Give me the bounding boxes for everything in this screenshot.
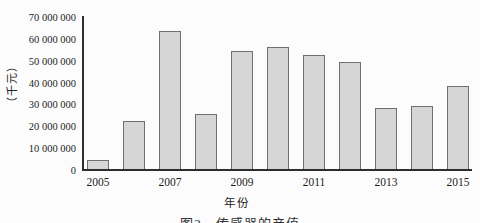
bar-2008 xyxy=(195,114,217,169)
bar-2011 xyxy=(303,55,325,169)
x-axis-title: 年份 xyxy=(224,194,250,210)
x-tick-label: 2009 xyxy=(220,176,264,188)
bar-chart-figure: （千元） 010 000 00020 000 00030 000 00040 0… xyxy=(0,0,480,223)
bar-2013 xyxy=(375,108,397,169)
figure-caption: 图2 传感器的产值 xyxy=(180,213,300,223)
bar-2014 xyxy=(411,106,433,169)
bar-2007 xyxy=(159,31,181,169)
y-tick-label: 20 000 000 xyxy=(0,121,76,132)
x-tick-label: 2005 xyxy=(76,176,120,188)
x-tick-label: 2013 xyxy=(364,176,408,188)
bar-2005 xyxy=(87,160,109,169)
bar-2015 xyxy=(447,86,469,169)
y-tick-label: 60 000 000 xyxy=(0,33,76,44)
bar-2012 xyxy=(339,62,361,169)
y-tick-label: 40 000 000 xyxy=(0,77,76,88)
bar-2006 xyxy=(123,121,145,169)
x-tick-label: 2015 xyxy=(436,176,480,188)
bar-2010 xyxy=(267,47,289,169)
x-tick-label: 2011 xyxy=(292,176,336,188)
y-tick-label: 10 000 000 xyxy=(0,143,76,154)
y-tick-label: 0 xyxy=(0,165,76,176)
x-tick-label: 2007 xyxy=(148,176,192,188)
y-tick-label: 50 000 000 xyxy=(0,55,76,66)
x-axis-line xyxy=(82,169,472,171)
y-tick-label: 70 000 000 xyxy=(0,12,76,23)
plot-area xyxy=(82,17,474,169)
bar-2009 xyxy=(231,51,253,169)
y-tick-label: 30 000 000 xyxy=(0,99,76,110)
